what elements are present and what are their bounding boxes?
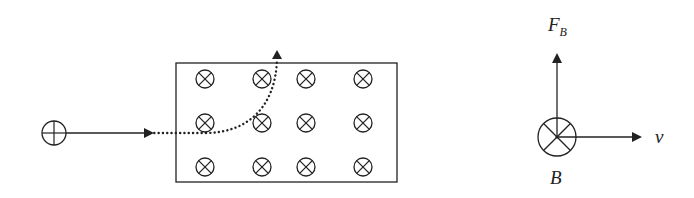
trajectory-arrowhead-icon (272, 50, 282, 59)
right-panel: FB v B (538, 14, 664, 188)
left-panel (42, 50, 397, 182)
positive-charge-icon (42, 121, 66, 145)
magnetic-force-diagram: FB v B (0, 0, 694, 198)
field-label: B (550, 167, 562, 188)
field-into-page-symbols (196, 70, 372, 176)
force-label: FB (547, 14, 568, 39)
velocity-label: v (655, 126, 664, 147)
